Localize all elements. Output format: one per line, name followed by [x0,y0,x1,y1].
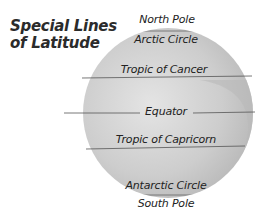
arctic-circle-label: Arctic Circle [134,33,198,46]
equator-label: Equator [145,105,187,118]
tropic-of-cancer-label: Tropic of Cancer [121,63,207,76]
antarctic-circle-label: Antarctic Circle [126,179,207,192]
tropic-of-capricorn-label: Tropic of Capricorn [116,133,216,146]
north-pole-label: North Pole [139,13,194,26]
south-pole-label: South Pole [138,197,195,210]
latitude-diagram: Special Lines of Latitude North Pole Arc… [0,0,260,218]
